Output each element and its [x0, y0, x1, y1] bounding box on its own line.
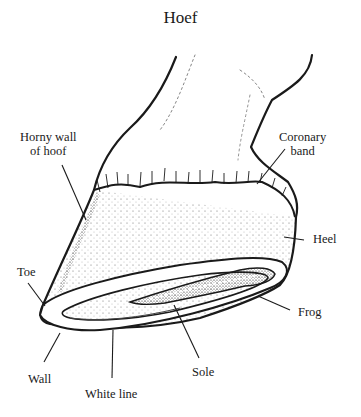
label-toe: Toe [17, 265, 36, 279]
hoof-illustration [0, 0, 361, 417]
label-frog: Frog [298, 305, 322, 319]
label-white-line: White line [85, 387, 137, 401]
label-coronary-band: Coronary band [279, 130, 326, 158]
label-horny-wall: Horny wall of hoof [20, 130, 77, 158]
label-wall: Wall [28, 372, 51, 386]
label-heel: Heel [313, 232, 337, 246]
label-sole: Sole [192, 365, 214, 379]
pastern [94, 55, 312, 190]
